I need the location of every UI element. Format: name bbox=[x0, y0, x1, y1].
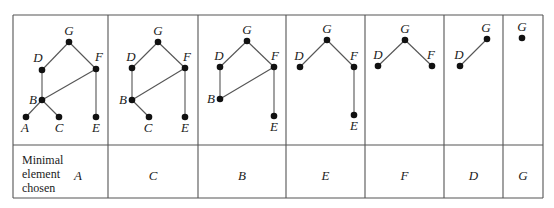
node-label-E: E bbox=[349, 118, 358, 133]
node-label-B: B bbox=[119, 92, 127, 107]
edge-F-B bbox=[42, 69, 96, 100]
node-D bbox=[297, 64, 304, 71]
edge-F-B bbox=[220, 67, 274, 99]
node-D bbox=[129, 65, 136, 72]
chosen-element-step-6: D bbox=[468, 168, 479, 183]
step-1-graph: GDFBACE bbox=[20, 23, 104, 135]
poset-topological-sort-diagram: GDFBACEGDFBCEGDFBEGDFEGDFGDG Minimal ele… bbox=[0, 0, 554, 208]
row-header-line-2: element bbox=[22, 167, 61, 181]
node-D bbox=[39, 67, 46, 74]
node-label-D: D bbox=[293, 48, 304, 63]
node-label-G: G bbox=[242, 22, 252, 37]
edge-G-F bbox=[69, 42, 96, 69]
step-4-graph: GDFE bbox=[293, 21, 359, 133]
node-G bbox=[155, 39, 162, 46]
chosen-elements-row: ACBEFDG bbox=[73, 168, 528, 183]
chosen-element-step-5: F bbox=[400, 168, 410, 183]
edge-G-D bbox=[300, 40, 327, 67]
node-label-D: D bbox=[32, 50, 43, 65]
step-6-graph: GD bbox=[453, 20, 491, 69]
node-B bbox=[129, 97, 136, 104]
chosen-element-step-1: A bbox=[73, 168, 82, 183]
node-label-F: F bbox=[270, 48, 280, 63]
node-F bbox=[271, 64, 278, 71]
node-F bbox=[351, 64, 358, 71]
node-label-F: F bbox=[349, 48, 359, 63]
node-D bbox=[457, 63, 464, 70]
edge-F-B bbox=[132, 68, 185, 100]
step-5-graph: GDF bbox=[372, 21, 436, 69]
hasse-diagrams: GDFBACEGDFBCEGDFBEGDFEGDFGDG bbox=[20, 19, 527, 135]
node-label-F: F bbox=[182, 49, 192, 64]
node-F bbox=[429, 63, 436, 70]
edge-G-D bbox=[132, 42, 158, 68]
row-header-minimal-element-chosen: Minimal element chosen bbox=[22, 153, 64, 195]
node-G bbox=[484, 36, 491, 43]
node-label-F: F bbox=[426, 47, 436, 62]
edge-B-C bbox=[42, 100, 59, 117]
edge-G-D bbox=[460, 39, 487, 66]
step-2-graph: GDFBCE bbox=[119, 23, 192, 135]
node-label-G: G bbox=[400, 21, 410, 36]
row-header-line-1: Minimal bbox=[22, 153, 64, 167]
node-label-E: E bbox=[269, 119, 278, 134]
node-F bbox=[93, 66, 100, 73]
node-label-D: D bbox=[213, 48, 224, 63]
edge-G-D bbox=[220, 41, 247, 67]
chosen-element-step-3: B bbox=[238, 168, 246, 183]
node-label-A: A bbox=[20, 120, 29, 135]
node-label-G: G bbox=[481, 20, 491, 35]
node-F bbox=[182, 65, 189, 72]
chosen-element-step-4: E bbox=[321, 168, 330, 183]
edge-G-F bbox=[158, 42, 185, 68]
edge-B-C bbox=[132, 100, 149, 117]
chosen-element-step-2: C bbox=[149, 168, 158, 183]
node-label-E: E bbox=[91, 120, 100, 135]
edge-G-D bbox=[42, 42, 69, 70]
node-label-C: C bbox=[55, 120, 64, 135]
table-grid bbox=[13, 15, 543, 198]
node-B bbox=[39, 97, 46, 104]
node-G bbox=[402, 37, 409, 44]
node-G bbox=[324, 37, 331, 44]
node-label-G: G bbox=[322, 21, 332, 36]
node-G bbox=[244, 38, 251, 45]
node-label-E: E bbox=[180, 120, 189, 135]
node-label-G: G bbox=[64, 23, 74, 38]
node-label-D: D bbox=[372, 47, 383, 62]
edge-G-F bbox=[247, 41, 274, 67]
chosen-element-step-7: G bbox=[518, 168, 528, 183]
node-label-D: D bbox=[125, 49, 136, 64]
node-label-B: B bbox=[29, 92, 37, 107]
row-header-line-3: chosen bbox=[22, 181, 55, 195]
node-G bbox=[519, 35, 526, 42]
node-label-B: B bbox=[207, 91, 215, 106]
node-D bbox=[375, 63, 382, 70]
node-label-G: G bbox=[517, 19, 527, 34]
step-7-graph: G bbox=[517, 19, 527, 41]
node-D bbox=[217, 64, 224, 71]
node-G bbox=[66, 39, 73, 46]
step-3-graph: GDFBE bbox=[207, 22, 280, 134]
node-B bbox=[217, 96, 224, 103]
node-label-G: G bbox=[153, 23, 163, 38]
node-label-D: D bbox=[453, 47, 464, 62]
node-label-C: C bbox=[144, 120, 153, 135]
node-label-F: F bbox=[94, 49, 104, 64]
